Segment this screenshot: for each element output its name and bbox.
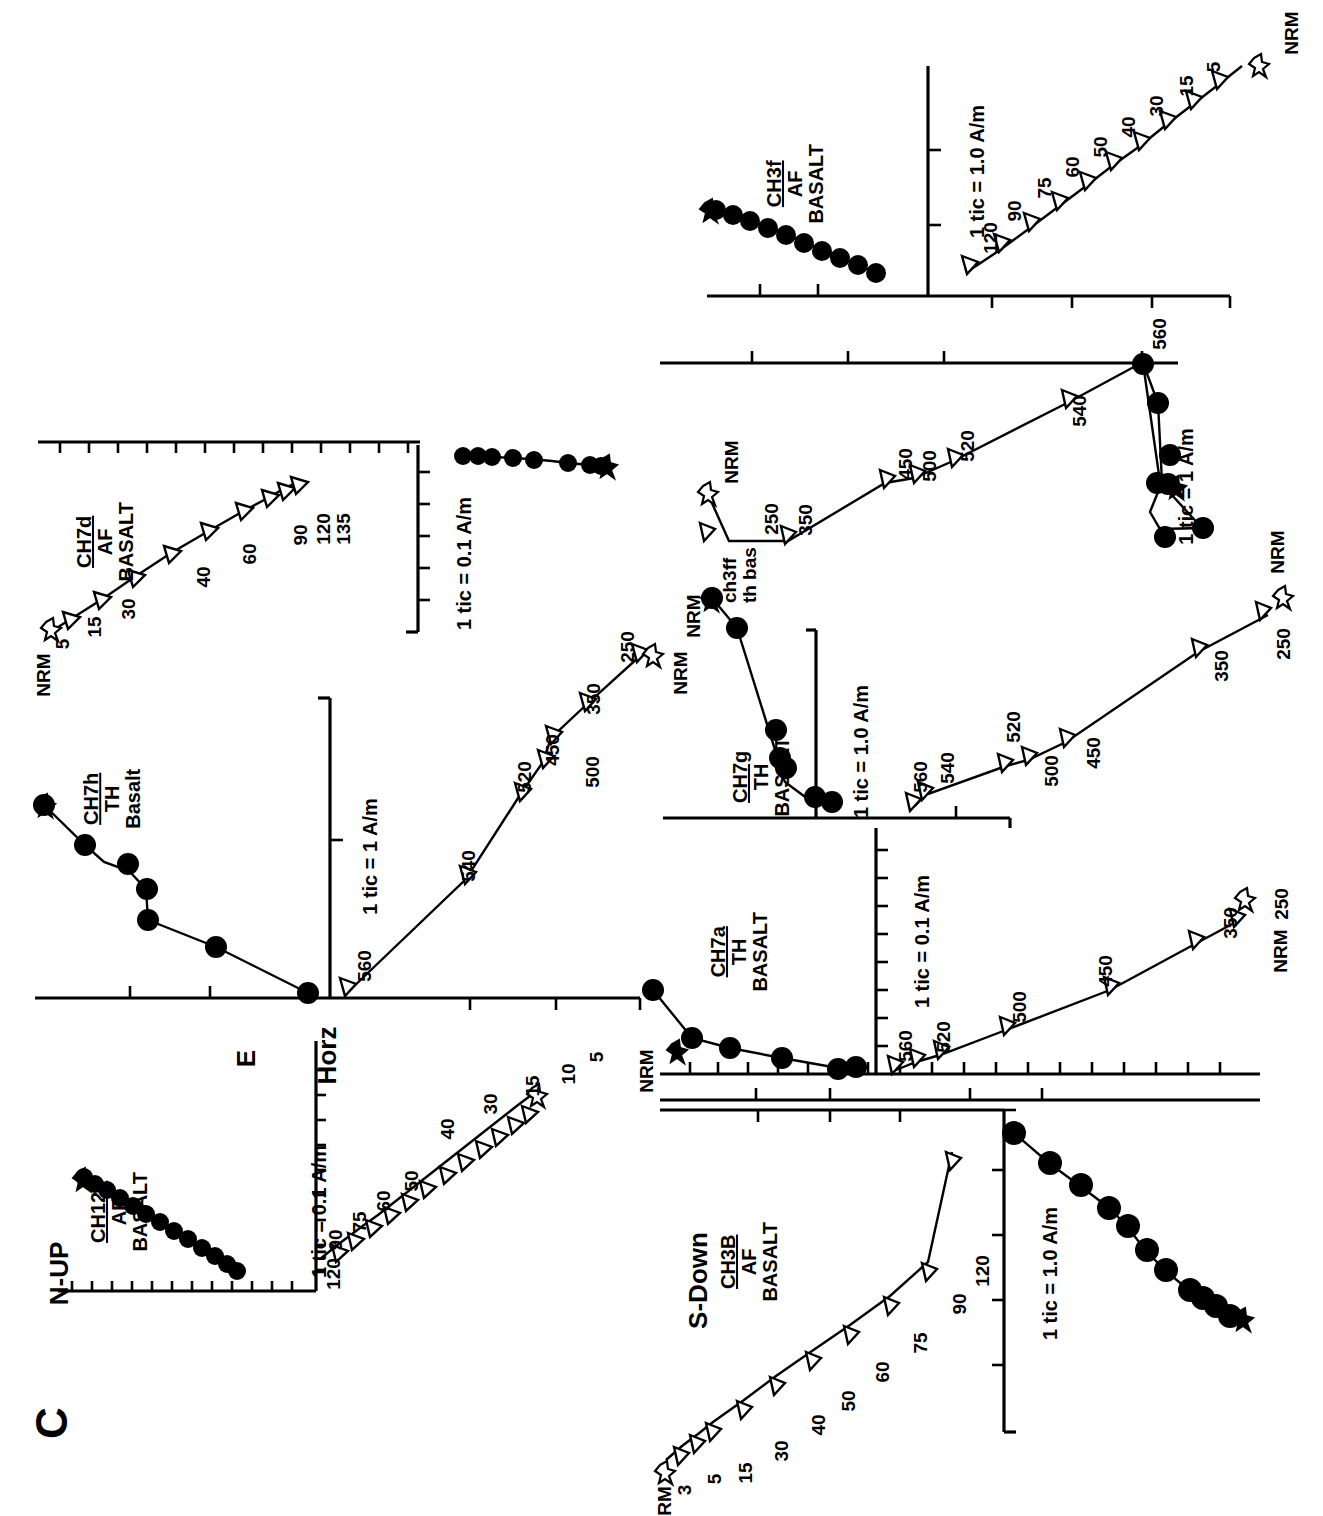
ch7h-step-560: 560 [354, 950, 376, 982]
ch3ff-step-250: 250 [761, 503, 783, 535]
ch12e-step-50: 50 [401, 1170, 423, 1191]
ch7h-step-540: 540 [458, 850, 480, 882]
ch7h-step-250: 250 [617, 631, 639, 663]
ch3ff-step-350: 350 [795, 504, 817, 536]
ch3b-sample: CH3B [718, 1222, 739, 1302]
ch7a-step-350: 350 [1220, 907, 1242, 939]
ch3f-lith: BASALT [806, 144, 827, 224]
ch7a-step-500: 500 [1009, 991, 1031, 1023]
ch7d-horizontal-series [454, 447, 617, 478]
ch7g-title: CH7g TH BASALT [730, 737, 794, 817]
ch3b-title: CH3B AF BASALT [718, 1222, 782, 1302]
ch7a-step-520: 520 [933, 1021, 955, 1053]
ch7d-step-60: 60 [239, 543, 261, 564]
ch7h-horizontal-series [33, 794, 319, 1004]
ch3f-scale: 1 tic = 1.0 A/m [966, 105, 989, 238]
ch12e-sample: CH12e [88, 1172, 109, 1252]
ch12e-step-40: 40 [437, 1118, 459, 1139]
ch3ff-step-nrm: NRM [721, 440, 743, 483]
ch7g-vertical-series [906, 586, 1293, 811]
ch7d-step-nrm: NRM [33, 653, 55, 696]
ch3b-step-30: 30 [771, 1440, 793, 1461]
ch7g-step-500: 500 [1041, 755, 1063, 787]
ch7h-step-520: 520 [514, 761, 536, 793]
ch3f-vertical-series [962, 54, 1269, 274]
ch3f-sample: CH3f [764, 144, 785, 224]
ch3f-step-40: 40 [1118, 116, 1140, 137]
ch3f-step-nrm: NRM [1281, 11, 1303, 54]
ch7g-step-nrm: NRM [683, 594, 705, 637]
ch3f-step-75: 75 [1034, 177, 1056, 198]
ch7h-step-500: 500 [582, 756, 604, 788]
ch7a-step-250: 250 [1271, 888, 1293, 920]
ch3ff-title: ch3ff th bas [720, 547, 760, 603]
ch7d-title: CH7d AF BASALT [74, 502, 138, 582]
ch7a-step-nrm: NRM [1270, 929, 1292, 972]
ch7d-method: AF [95, 502, 116, 582]
ch7d-lith: BASALT [116, 502, 137, 582]
ch3f-step-5: 5 [1203, 62, 1225, 73]
ch7a-lith: BASALT [750, 912, 771, 992]
ch3b-step-5: 5 [704, 1474, 726, 1485]
ch12e-lith: BASALT [130, 1172, 151, 1252]
ch3b-step-40: 40 [808, 1414, 830, 1435]
ch7g-step-350: 350 [1211, 650, 1233, 682]
ch7d-step-30: 30 [118, 598, 140, 619]
ch12e-axes [58, 1041, 326, 1291]
ch3ff-step-540: 540 [1069, 395, 1091, 427]
ch3b-axes [660, 1110, 1016, 1432]
ch3b-method: AF [739, 1222, 760, 1302]
ch12e-vertical-series [320, 1084, 547, 1262]
ch3f-step-15: 15 [1176, 75, 1198, 96]
ch3b-step-15: 15 [735, 1462, 757, 1483]
ch3ff-sample: ch3ff [720, 547, 740, 603]
ch7g-lith: BASALT [772, 737, 793, 817]
ch12e-step-30: 30 [480, 1093, 502, 1114]
ch3f-step-60: 60 [1062, 156, 1084, 177]
ch3f-step-50: 50 [1090, 136, 1112, 157]
ch3ff-step-nrm-2: NRM [1267, 530, 1289, 573]
ch3ff-axes [660, 351, 1178, 363]
ch7g-step-450: 450 [1083, 737, 1105, 769]
ch12e-step-10: 10 [558, 1063, 580, 1084]
ch3f-title: CH3f AF BASALT [764, 144, 828, 224]
ch7d-sample: CH7d [74, 502, 95, 582]
ch7g-sample: CH7g [730, 737, 751, 817]
ch7g-step-560: 560 [910, 761, 932, 793]
ch3ff-step-450: 450 [895, 448, 917, 480]
ch3f-step-30: 30 [1146, 95, 1168, 116]
ch3b-step-50: 50 [838, 1390, 860, 1411]
ch7h-method: TH [102, 769, 123, 829]
ch3f-step-90: 90 [1004, 200, 1026, 221]
ch12e-title: CH12e AF BASALT [88, 1172, 152, 1252]
ch7d-step-135: 135 [333, 513, 355, 545]
ch7h-step-350: 350 [583, 683, 605, 715]
ch3b-step-rm: RM [654, 1486, 676, 1516]
ch3ff-step-500: 500 [919, 450, 941, 482]
ch12e-step-75: 75 [349, 1211, 371, 1232]
ch7d-step-5: 5 [52, 639, 74, 650]
ch7h-scale: 1 tic = 1 A/m [359, 798, 382, 915]
ch7h-step-nrm: NRM [670, 651, 692, 694]
ch7a-sample: CH7a [708, 912, 729, 992]
ch12e-step-120: 120 [323, 1258, 345, 1290]
ch3b-step-75: 75 [910, 1332, 932, 1353]
ch3ff-step-520: 520 [957, 430, 979, 462]
ch3b-step-120: 120 [972, 1255, 994, 1287]
ch7d-step-120: 120 [313, 513, 335, 545]
ch12e-step-nrm: NRM [636, 1049, 658, 1092]
ch7d-step-15: 15 [84, 616, 106, 637]
ch3f-method: AF [785, 144, 806, 224]
ch3f-step-120: 120 [980, 222, 1002, 254]
ch3b-lith: BASALT [760, 1222, 781, 1302]
ch7a-step-560: 560 [895, 1030, 917, 1062]
ch7h-sample: CH7h [81, 769, 102, 829]
ch7a-horizontal-series [642, 979, 867, 1080]
ch7g-scale: 1 tic = 1.0 A/m [850, 685, 873, 818]
ch7h-lith: Basalt [124, 769, 145, 829]
ch7h-title: CH7h TH Basalt [81, 769, 145, 829]
ch3b-step-3: 3 [674, 1485, 696, 1496]
ch7g-method: TH [751, 737, 772, 817]
ch7a-scale: 1 tic = 0.1 A/m [911, 875, 934, 1008]
ch7a-title: CH7a TH BASALT [708, 912, 772, 992]
